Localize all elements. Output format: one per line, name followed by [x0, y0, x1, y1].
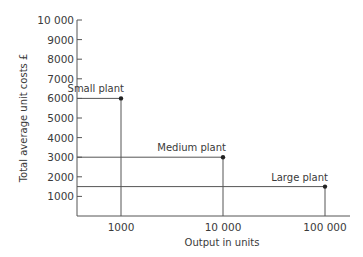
x-tick-label: 1000 [108, 221, 135, 233]
data-points: Small plantMedium plantLarge plant [68, 83, 329, 188]
y-tick-label: 2000 [47, 171, 74, 183]
y-tick-label: 3000 [47, 151, 74, 163]
point-label: Large plant [271, 172, 328, 183]
x-tick-label: 100 000 [303, 221, 346, 233]
guide-lines [77, 98, 325, 216]
x-tick-label: 10 000 [205, 221, 242, 233]
y-tick-label: 5000 [47, 112, 74, 124]
point-label: Small plant [68, 83, 125, 94]
data-point [119, 96, 123, 100]
data-point [323, 184, 327, 188]
point-label: Medium plant [157, 142, 226, 153]
y-axis-ticks: 10002000300040005000600070008000900010 0… [37, 14, 82, 202]
data-point [221, 155, 225, 159]
y-axis-label: Total average unit costs £ [18, 54, 29, 184]
y-tick-label: 4000 [47, 132, 74, 144]
x-axis-label: Output in units [185, 237, 260, 248]
cost-chart: 10002000300040005000600070008000900010 0… [0, 0, 363, 257]
x-axis-ticks: 100010 000100 000 [108, 221, 347, 233]
y-tick-label: 1000 [47, 190, 74, 202]
y-tick-label: 10 000 [37, 14, 74, 26]
y-tick-label: 8000 [47, 53, 74, 65]
y-tick-label: 9000 [47, 34, 74, 46]
